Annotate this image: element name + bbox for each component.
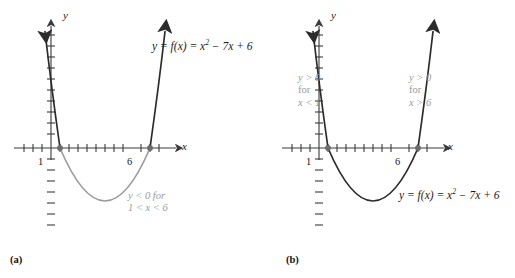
panel-caption-b: (b): [286, 254, 299, 265]
panel-caption-a: (a): [10, 254, 22, 265]
x-axis-label: x: [448, 140, 453, 153]
y-axis-label: y: [331, 9, 336, 22]
root-marker-6: [147, 145, 153, 151]
annotation-positive-left: y > 0forx < 1: [298, 72, 320, 109]
panel-b-graph: [258, 0, 515, 278]
quadratic-inequality-figure: y x 1 6 y = f(x) = x2 − 7x + 6 y < 0 for…: [0, 0, 515, 278]
tick-label-6: 6: [395, 156, 400, 168]
curve-parabola: [313, 32, 433, 202]
root-marker-6: [415, 145, 421, 151]
panel-b: y x 1 6 y > 0forx < 1 y > 0forx > 6 y = …: [258, 0, 515, 278]
equation-label: y = f(x) = x2 − 7x + 6: [152, 40, 253, 54]
x-axis-label: x: [182, 140, 187, 153]
annotation-negative-region: y < 0 for1 < x < 6: [128, 190, 168, 215]
root-marker-1: [57, 145, 63, 151]
tick-label-1: 1: [38, 156, 43, 168]
y-axis-label: y: [63, 9, 68, 22]
tick-label-6: 6: [127, 156, 132, 168]
tick-label-1: 1: [306, 156, 311, 168]
annotation-positive-right: y > 0forx > 6: [409, 72, 431, 109]
root-marker-1: [325, 145, 331, 151]
panel-a: y x 1 6 y = f(x) = x2 − 7x + 6 y < 0 for…: [0, 0, 257, 278]
equation-label: y = f(x) = x2 − 7x + 6: [399, 189, 500, 203]
